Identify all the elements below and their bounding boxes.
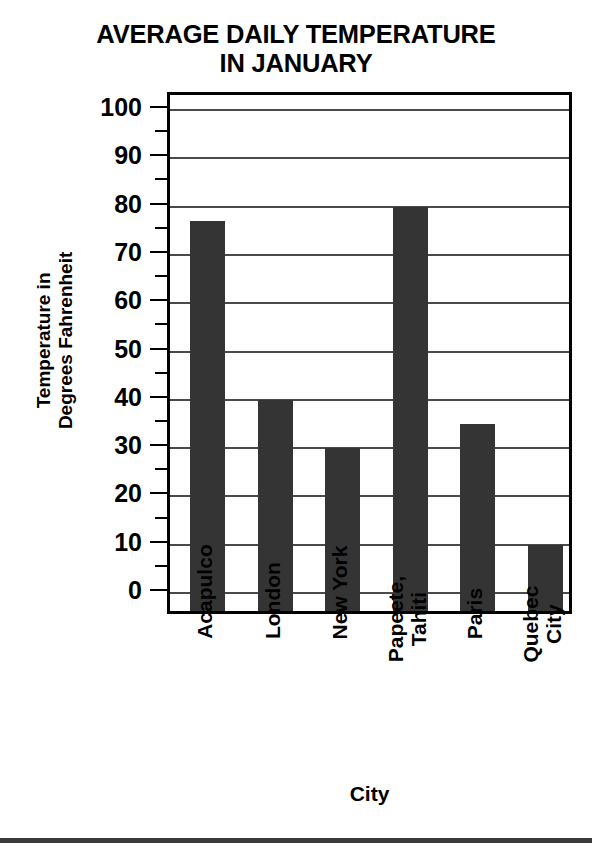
x-tick-label-line: London: [261, 562, 284, 639]
x-tick-label-line: Quebec: [519, 585, 542, 662]
y-axis-tick-labels: 1009080706050403020100: [88, 92, 150, 588]
x-axis-title: City: [167, 782, 572, 806]
x-tick-label-london: London: [239, 616, 307, 766]
y-tick-label-100: 100: [100, 95, 142, 120]
y-tick-label-70: 70: [114, 239, 142, 264]
x-tick-label-paris: Paris: [441, 616, 509, 766]
y-tick-label-10: 10: [114, 529, 142, 554]
x-tick-label-papeete-tahiti: Papeete,Tahiti: [374, 616, 442, 766]
bars-group: [170, 95, 569, 611]
y-axis-title-line-2: Degrees Fahrenheit: [56, 251, 78, 428]
y-axis-title: Temperature in Degrees Fahrenheit: [24, 92, 88, 588]
y-tick-label-0: 0: [128, 578, 142, 603]
y-tick-label-20: 20: [114, 481, 142, 506]
x-tick-label-line: Papeete,: [384, 576, 407, 662]
x-axis-tick-labels: AcapulcoLondonNew YorkPapeete,TahitiPari…: [167, 616, 572, 766]
x-tick-label-new-york: New York: [306, 616, 374, 766]
bar-paris: [460, 424, 495, 614]
bar-papeete-tahiti: [393, 207, 428, 614]
x-tick-label-line: Acapulco: [193, 545, 216, 640]
x-tick-label-line: City: [542, 585, 565, 662]
x-tick-label-line: Tahiti: [407, 576, 430, 662]
x-tick-label-line: New York: [328, 545, 351, 639]
plot-area: [167, 92, 572, 614]
y-tick-label-50: 50: [114, 336, 142, 361]
chart-title-line-2: IN JANUARY: [0, 49, 592, 78]
x-tick-label-quebec-city: QuebecCity: [509, 616, 577, 766]
chart-title: AVERAGE DAILY TEMPERATURE IN JANUARY: [0, 20, 592, 78]
x-tick-label-line: Paris: [463, 588, 486, 639]
y-tick-label-80: 80: [114, 191, 142, 216]
y-tick-label-40: 40: [114, 384, 142, 409]
chart-title-line-1: AVERAGE DAILY TEMPERATURE: [0, 20, 592, 49]
x-tick-label-acapulco: Acapulco: [171, 616, 239, 766]
bottom-divider: [0, 838, 592, 843]
y-tick-label-90: 90: [114, 143, 142, 168]
y-axis-title-line-1: Temperature in: [34, 251, 56, 428]
y-tick-label-60: 60: [114, 288, 142, 313]
y-tick-label-30: 30: [114, 433, 142, 458]
